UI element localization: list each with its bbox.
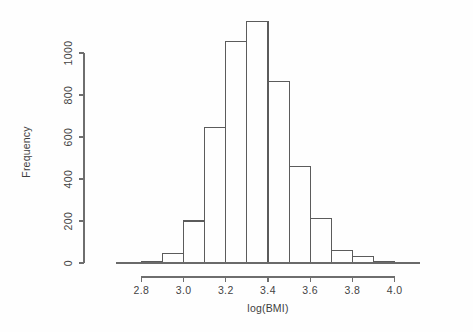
x-tick-label: 3.4 [260,284,276,296]
x-axis-title: log(BMI) [247,302,288,314]
y-tick-label: 400 [62,170,74,189]
histogram-bar [352,257,373,263]
bars-group [116,22,420,264]
histogram-figure: 2.83.03.23.43.63.84.0 02004006008001000 … [0,0,473,332]
histogram-bar [226,41,247,263]
histogram-bar [184,221,205,263]
y-tick-label: 0 [62,260,74,266]
histogram-bar [247,22,268,264]
x-axis: 2.83.03.23.43.63.84.0 [133,277,402,296]
histogram-bar [205,128,226,263]
x-tick-label: 4.0 [387,284,403,296]
histogram-bar [162,254,183,263]
y-tick-label: 800 [62,86,74,105]
plot-canvas: 2.83.03.23.43.63.84.0 02004006008001000 … [0,0,473,332]
y-tick-label: 200 [62,212,74,231]
y-axis-title: Frequency [20,126,32,178]
y-axis: 02004006008001000 [62,41,85,267]
y-tick-label: 600 [62,128,74,147]
x-tick-label: 3.2 [218,284,234,296]
histogram-bar [289,166,310,263]
x-tick-label: 3.6 [302,284,318,296]
histogram-bar [268,81,289,263]
x-tick-label: 2.8 [133,284,149,296]
x-tick-label: 3.8 [345,284,361,296]
y-tick-label: 1000 [62,41,74,66]
histogram-bar [331,250,352,263]
x-tick-label: 3.0 [176,284,192,296]
histogram-bar [310,219,331,263]
